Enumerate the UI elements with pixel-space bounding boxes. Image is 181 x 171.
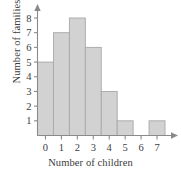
x-tick-label-0: 0 (43, 142, 48, 153)
bar-0 (38, 62, 54, 135)
bar-7 (149, 121, 165, 136)
y-tick-label-8: 8 (26, 13, 31, 24)
y-tick-label-2: 2 (26, 101, 31, 112)
x-tick-label-2: 2 (75, 142, 80, 153)
y-axis-arrow-icon (34, 4, 40, 11)
x-tick-label-7: 7 (154, 142, 159, 153)
x-tick-label-4: 4 (107, 142, 113, 153)
bar-3 (85, 47, 101, 135)
y-axis-tick-labels: 12345678 (26, 13, 32, 127)
bars-group (38, 18, 166, 136)
y-tick-label-7: 7 (26, 27, 31, 38)
x-axis-tick-labels: 01234567 (43, 142, 160, 153)
x-tick-label-3: 3 (91, 142, 96, 153)
histogram-chart: Number of families 12345678 01234567 Num… (0, 0, 181, 171)
x-tick-label-1: 1 (59, 142, 64, 153)
y-tick-label-5: 5 (26, 57, 31, 68)
bar-2 (69, 18, 85, 136)
y-tick-label-1: 1 (26, 115, 31, 126)
x-axis-arrow-icon (171, 132, 178, 138)
y-tick-label-3: 3 (26, 86, 31, 97)
x-tick-label-6: 6 (138, 142, 143, 153)
bar-5 (117, 121, 133, 136)
plot-area: 12345678 01234567 (0, 0, 181, 171)
x-axis-title: Number of children (0, 157, 181, 168)
x-tick-label-5: 5 (123, 142, 128, 153)
y-tick-label-6: 6 (26, 42, 31, 53)
bar-4 (101, 91, 117, 135)
y-tick-label-4: 4 (26, 71, 32, 82)
bar-1 (53, 33, 69, 136)
